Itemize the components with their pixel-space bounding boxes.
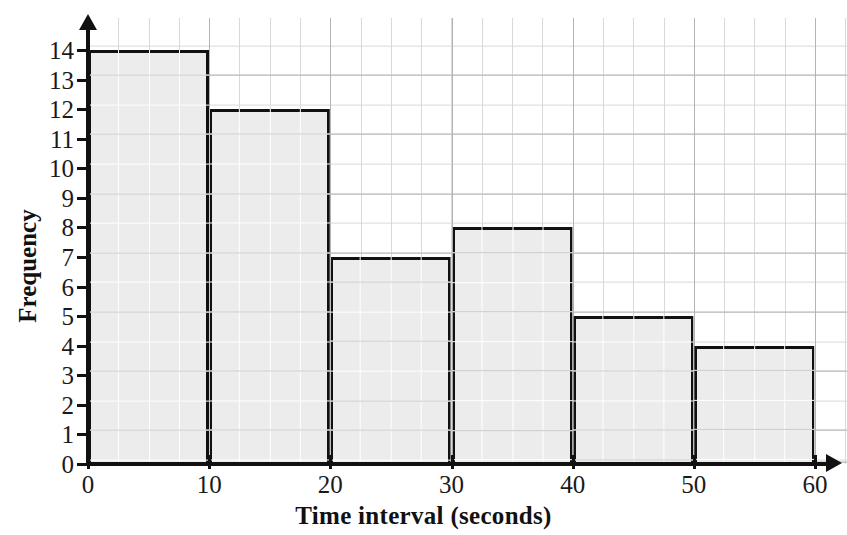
plot-area: [88, 18, 847, 464]
x-tick-label: 20: [295, 472, 365, 497]
x-tick-mark: [87, 455, 90, 469]
y-tick-mark: [77, 286, 89, 289]
y-tick-label: 13: [12, 68, 74, 93]
y-tick-label: 3: [12, 363, 74, 388]
y-tick-mark: [77, 79, 89, 82]
bar-major-grid: [88, 50, 209, 464]
x-axis-line: [88, 462, 830, 466]
y-tick-mark: [77, 374, 89, 377]
y-tick-mark: [77, 463, 89, 466]
histogram-bar: [452, 227, 573, 464]
bar-minor-grid: [88, 50, 209, 464]
histogram-bar: [88, 50, 209, 464]
bar-minor-grid: [452, 227, 573, 464]
y-tick-mark: [77, 256, 89, 259]
y-tick-mark: [77, 108, 89, 111]
x-axis-arrow-icon: [826, 454, 842, 472]
y-tick-mark: [77, 197, 89, 200]
bar-minor-grid: [694, 346, 815, 464]
x-tick-label: 60: [780, 472, 847, 497]
bar-minor-grid: [209, 109, 330, 464]
y-tick-label: 1: [12, 422, 74, 447]
x-axis-title: Time interval (seconds): [0, 502, 847, 530]
y-tick-mark: [77, 345, 89, 348]
histogram-bar: [330, 257, 451, 464]
x-tick-mark: [451, 455, 454, 469]
y-tick-label: 2: [12, 393, 74, 418]
x-tick-mark: [693, 455, 696, 469]
y-tick-mark: [77, 404, 89, 407]
y-axis-title: Frequency: [14, 176, 42, 356]
histogram-bar: [694, 346, 815, 464]
x-tick-label: 30: [417, 472, 487, 497]
x-tick-label: 50: [659, 472, 729, 497]
y-tick-mark: [77, 315, 89, 318]
y-tick-mark: [77, 433, 89, 436]
bar-major-grid: [573, 316, 694, 464]
histogram-figure: 01234567891011121314 0102030405060 Time …: [0, 0, 847, 535]
histogram-bar: [209, 109, 330, 464]
bar-major-grid: [209, 109, 330, 464]
bar-minor-grid: [330, 257, 451, 464]
y-tick-mark: [77, 226, 89, 229]
x-tick-mark: [329, 455, 332, 469]
y-tick-label: 11: [12, 127, 74, 152]
bar-major-grid: [330, 257, 451, 464]
x-tick-label: 10: [174, 472, 244, 497]
y-tick-mark: [77, 138, 89, 141]
x-tick-mark: [208, 455, 211, 469]
y-tick-label: 12: [12, 97, 74, 122]
histogram-bar: [573, 316, 694, 464]
x-tick-label: 0: [53, 472, 123, 497]
y-tick-mark: [77, 49, 89, 52]
y-axis-line: [86, 26, 90, 466]
y-axis-arrow-icon: [79, 14, 97, 30]
x-tick-mark: [814, 455, 817, 469]
x-tick-label: 40: [538, 472, 608, 497]
y-tick-mark: [77, 167, 89, 170]
x-tick-mark: [572, 455, 575, 469]
y-tick-label: 14: [12, 38, 74, 63]
bar-major-grid: [452, 227, 573, 464]
bar-major-grid: [694, 346, 815, 464]
bar-minor-grid: [573, 316, 694, 464]
